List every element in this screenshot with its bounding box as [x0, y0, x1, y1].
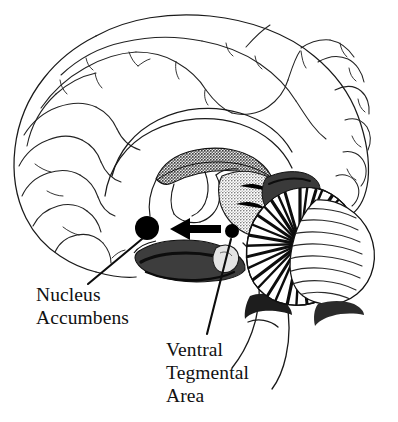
ventral-tegmental-area-marker: [225, 224, 239, 238]
label-nucleus-accumbens: Nucleus Accumbens: [36, 283, 129, 329]
label-nucleus-accumbens-line-1: Nucleus: [36, 283, 129, 306]
nucleus-accumbens-marker: [135, 216, 159, 240]
label-ventral-tegmental-area-line-2: Tegmental: [166, 361, 249, 384]
label-ventral-tegmental-area-line-3: Area: [166, 384, 249, 407]
brain-diagram-figure: Nucleus Accumbens Ventral Tegmental Area: [0, 0, 398, 422]
label-nucleus-accumbens-line-2: Accumbens: [36, 306, 129, 329]
label-ventral-tegmental-area-line-1: Ventral: [166, 338, 249, 361]
label-ventral-tegmental-area: Ventral Tegmental Area: [166, 338, 249, 407]
